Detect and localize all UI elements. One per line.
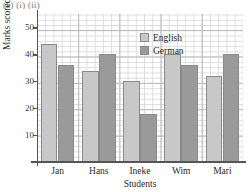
bar-group <box>202 14 243 162</box>
x-label-hans: Hans <box>89 166 109 176</box>
bar-jan-german <box>58 65 75 162</box>
x-label-wim: Wim <box>172 166 191 176</box>
y-tick-label: 20 <box>25 103 34 113</box>
x-label-ineke: Ineke <box>129 166 150 176</box>
y-tick-label: 10 <box>25 130 34 140</box>
x-axis-line <box>31 161 246 162</box>
y-axis-line <box>37 10 38 166</box>
bar-ineke-english <box>123 81 140 162</box>
bar-jan-english <box>41 44 58 162</box>
bar-hans-german <box>99 54 116 162</box>
bar-wim-german <box>181 65 198 162</box>
bar-group <box>37 14 78 162</box>
legend-label-german: German <box>153 46 184 56</box>
x-axis-title: Students <box>124 179 157 189</box>
x-label-mari: Mari <box>213 166 231 176</box>
english-swatch-icon <box>140 33 149 42</box>
bar-mari-german <box>223 54 240 162</box>
german-swatch-icon <box>140 46 149 55</box>
y-tick-label: 30 <box>25 76 34 86</box>
bar-hans-english <box>82 71 99 162</box>
legend-label-english: English <box>153 33 182 43</box>
bar-group <box>78 14 119 162</box>
y-axis-title: Marks scored <box>2 36 12 50</box>
legend-item-german: German <box>140 44 184 57</box>
bar-wim-english <box>164 54 181 162</box>
y-tick-label: 40 <box>25 49 34 59</box>
chart-legend: English German <box>140 31 184 57</box>
plot-area: 1020304050 English German <box>37 14 243 162</box>
y-tick-label: 50 <box>25 22 34 32</box>
bar-chart-figure: 1020304050 English German Marks scored S… <box>0 0 251 192</box>
bar-mari-english <box>206 76 223 162</box>
x-label-jan: Jan <box>51 166 64 176</box>
bar-ineke-german <box>140 114 157 162</box>
legend-item-english: English <box>140 31 184 44</box>
